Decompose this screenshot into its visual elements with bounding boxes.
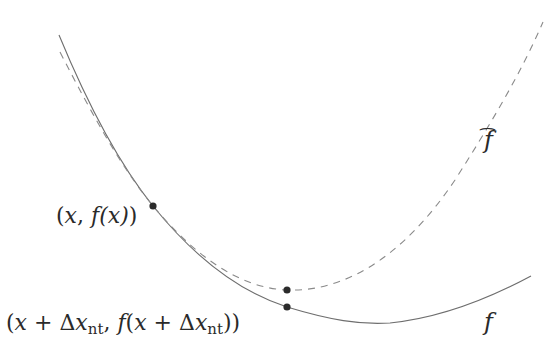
var-x: x	[75, 310, 87, 335]
paren: ))	[223, 310, 240, 335]
point-newton-f	[283, 303, 290, 310]
var-x: x	[195, 310, 207, 335]
curve-fhat	[60, 22, 543, 290]
diagram-canvas	[0, 0, 553, 358]
paren: )	[129, 203, 138, 228]
hat-accent: ⌢	[478, 118, 497, 136]
var-f: f	[117, 310, 125, 335]
plus-delta: + Δ	[27, 310, 75, 335]
paren: (	[126, 310, 135, 335]
comma: ,	[103, 310, 117, 335]
var-f: f	[484, 308, 493, 336]
point-newton-fhat	[283, 286, 290, 293]
label-f: f	[484, 310, 493, 334]
var-x: x	[134, 310, 146, 335]
point-current	[149, 202, 156, 209]
label-newton-point: (x + Δxnt, f(x + Δxnt))	[6, 312, 240, 337]
paren: (	[56, 203, 65, 228]
arg: (x)	[99, 203, 129, 228]
paren: (	[6, 310, 15, 335]
curve-f	[59, 35, 531, 323]
label-current-point: (x, f(x))	[56, 205, 137, 227]
subscript-nt: nt	[88, 320, 104, 338]
var-f: f	[91, 203, 99, 228]
var-x: x	[65, 203, 77, 228]
plus-delta: + Δ	[147, 310, 195, 335]
comma: ,	[77, 203, 91, 228]
var-x: x	[15, 310, 27, 335]
label-fhat: ⌢f	[484, 128, 493, 152]
subscript-nt: nt	[207, 320, 223, 338]
newton-step-diagram: (x, f(x)) (x + Δxnt, f(x + Δxnt)) ⌢f f	[0, 0, 553, 358]
